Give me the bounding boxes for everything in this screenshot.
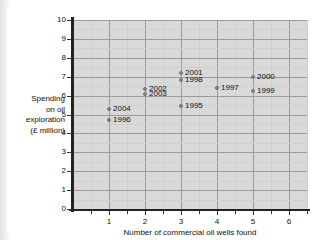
x-tick-mark — [271, 211, 272, 214]
y-tick-label: 2 — [52, 167, 66, 175]
y-tick-label: 10 — [52, 16, 66, 24]
data-point-label: 2004 — [113, 104, 131, 113]
x-tick-mark — [307, 211, 308, 214]
x-tick-mark — [181, 211, 182, 215]
x-tick-mark — [91, 211, 92, 214]
data-point-marker — [107, 107, 111, 111]
gridline-horizontal — [73, 124, 307, 125]
y-tick-label: 9 — [52, 35, 66, 43]
x-tick-mark — [235, 211, 236, 214]
y-tick-mark — [67, 209, 72, 210]
gridline-horizontal — [73, 171, 307, 172]
x-tick-mark — [289, 211, 290, 215]
gridline-horizontal — [73, 96, 307, 97]
gridline-horizontal — [73, 48, 307, 49]
y-tick-mark — [67, 133, 72, 134]
gridline-horizontal — [73, 181, 307, 182]
gridline-horizontal — [73, 58, 307, 59]
chart-card: 012345678910 123456 Spendingon oilexplor… — [7, 6, 310, 234]
gridline-horizontal — [73, 39, 307, 40]
x-tick-mark — [253, 211, 254, 215]
y-tick-label: 7 — [52, 73, 66, 81]
y-tick-mark — [67, 152, 72, 153]
gridline-horizontal — [73, 143, 307, 144]
data-point-marker — [143, 87, 147, 91]
data-point-label: 1998 — [185, 75, 203, 84]
y-tick-label: 1 — [52, 186, 66, 194]
plot-area — [73, 20, 307, 209]
data-point-label: 2003 — [149, 89, 167, 98]
y-tick-mark — [67, 115, 72, 116]
x-tick-mark — [145, 211, 146, 215]
x-tick-label: 5 — [245, 217, 261, 226]
y-tick-label: 3 — [52, 148, 66, 156]
gridline-horizontal — [73, 133, 307, 134]
x-tick-label: 4 — [209, 217, 225, 226]
data-point-label: 1999 — [257, 86, 275, 95]
x-tick-label: 6 — [281, 217, 297, 226]
y-tick-mark — [67, 77, 72, 78]
y-tick-mark — [67, 171, 72, 172]
gridline-horizontal — [73, 29, 307, 30]
gridline-horizontal — [73, 190, 307, 191]
y-tick-mark — [67, 190, 72, 191]
x-axis-line — [69, 209, 310, 212]
y-tick-mark — [67, 39, 72, 40]
data-point-marker — [251, 75, 255, 79]
y-axis-title: Spendingon oilexploration(£ million) — [9, 94, 65, 136]
data-point-marker — [215, 86, 219, 90]
gridline-horizontal — [73, 115, 307, 116]
x-tick-mark — [109, 211, 110, 215]
y-tick-label: 0 — [52, 205, 66, 213]
x-tick-mark — [127, 211, 128, 214]
gridline-horizontal — [73, 20, 307, 21]
data-point-marker — [143, 92, 147, 96]
gridline-horizontal — [73, 162, 307, 163]
data-point-marker — [251, 89, 255, 93]
y-axis-title-line: on oil — [9, 105, 65, 116]
y-tick-mark — [67, 58, 72, 59]
data-point-marker — [179, 104, 183, 108]
data-point-label: 1996 — [113, 115, 131, 124]
data-point-label: 2000 — [257, 72, 275, 81]
x-tick-mark — [163, 211, 164, 214]
x-tick-label: 3 — [173, 217, 189, 226]
data-point-label: 1995 — [185, 101, 203, 110]
y-tick-label: 8 — [52, 54, 66, 62]
x-axis-title: Number of commercial oil wells found — [73, 228, 307, 237]
x-tick-label: 2 — [137, 217, 153, 226]
gridline-horizontal — [73, 152, 307, 153]
x-tick-mark — [199, 211, 200, 214]
y-tick-mark — [67, 96, 72, 97]
gridline-horizontal — [73, 200, 307, 201]
gridline-vertical — [307, 20, 308, 209]
x-tick-label: 1 — [101, 217, 117, 226]
data-point-label: 1997 — [221, 83, 239, 92]
y-axis-title-line: (£ million) — [9, 126, 65, 137]
y-axis-title-line: exploration — [9, 115, 65, 126]
image-frame: 012345678910 123456 Spendingon oilexplor… — [0, 0, 315, 240]
y-axis-title-line: Spending — [9, 94, 65, 105]
y-tick-mark — [67, 20, 72, 21]
data-point-marker — [179, 71, 183, 75]
x-tick-mark — [217, 211, 218, 215]
